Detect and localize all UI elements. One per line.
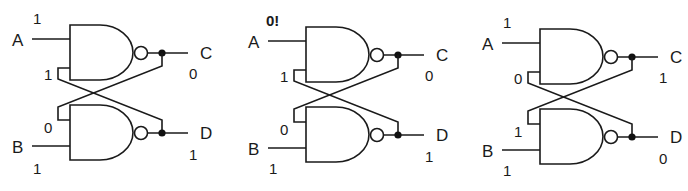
input-b-label: B	[482, 142, 493, 161]
nand-latch-circuit	[268, 27, 424, 162]
feedback-top-value: 1	[44, 66, 52, 83]
nand-latch-circuit	[32, 25, 188, 160]
latch-panel-1: 1 A 1 0 B 1 C 0 D 1	[12, 10, 212, 177]
output-d-label: D	[670, 128, 682, 147]
feedback-top-value: 0	[514, 70, 522, 87]
output-c-value: 0	[189, 65, 197, 82]
input-b-value: 1	[33, 160, 41, 177]
input-a-label: A	[248, 33, 260, 52]
feedback-top-value: 1	[280, 68, 288, 85]
output-c-label: C	[436, 46, 448, 65]
output-d-value: 1	[425, 148, 433, 165]
output-d-label: D	[200, 124, 212, 143]
input-b-value: 1	[503, 162, 511, 179]
output-c-value: 0	[425, 67, 433, 84]
input-a-value: 0!	[266, 12, 279, 29]
latch-panel-3: 1 A 0 1 B 1 C 1 D 0	[482, 14, 682, 179]
input-b-label: B	[248, 140, 259, 159]
nand-latch-diagram: 1 A 1 0 B 1 C 0 D 1 0! A 1 0 B 1 C 0 D 1	[0, 0, 688, 191]
feedback-bottom-value: 1	[514, 123, 522, 140]
latch-panel-2: 0! A 1 0 B 1 C 0 D 1	[248, 12, 448, 177]
output-d-value: 0	[659, 150, 667, 167]
feedback-bottom-value: 0	[44, 119, 52, 136]
output-c-label: C	[200, 44, 212, 63]
feedback-bottom-value: 0	[280, 121, 288, 138]
input-b-label: B	[12, 138, 23, 157]
output-c-value: 1	[659, 69, 667, 86]
input-a-value: 1	[33, 10, 41, 27]
input-b-value: 1	[269, 160, 277, 177]
output-c-label: C	[670, 48, 682, 67]
nand-latch-circuit	[502, 29, 658, 164]
output-d-value: 1	[189, 146, 197, 163]
input-a-label: A	[12, 31, 24, 50]
output-d-label: D	[436, 126, 448, 145]
input-a-value: 1	[503, 14, 511, 31]
input-a-label: A	[482, 35, 494, 54]
